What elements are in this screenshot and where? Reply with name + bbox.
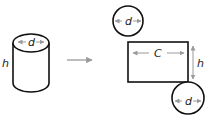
bottom-circle-diameter-label: d bbox=[185, 95, 193, 108]
net-bottom-circle: d bbox=[172, 82, 204, 114]
rectangle-height-label: h bbox=[197, 57, 204, 70]
net-rectangle: C h bbox=[128, 42, 204, 82]
top-circle-diameter-label: d bbox=[125, 15, 133, 28]
cylinder-net-diagram: d h d C h d bbox=[0, 0, 208, 123]
cylinder: d h bbox=[2, 34, 49, 92]
cylinder-height-label: h bbox=[2, 57, 9, 70]
cylinder-diameter-label: d bbox=[28, 36, 36, 49]
net-top-circle: d bbox=[113, 6, 143, 36]
rectangle-width-label: C bbox=[154, 47, 162, 60]
